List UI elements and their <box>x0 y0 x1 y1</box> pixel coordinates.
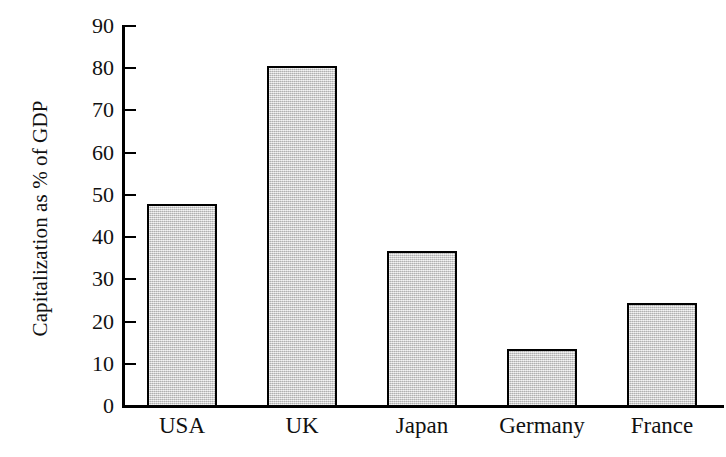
bar-japan <box>387 251 457 407</box>
bars-layer <box>122 26 724 407</box>
y-tick-label: 30 <box>74 268 114 290</box>
y-tick-label: 90 <box>74 15 114 37</box>
y-tick-label: 60 <box>74 142 114 164</box>
y-axis-title: Capitalization as % of GDP <box>28 19 53 419</box>
bar-france <box>627 303 697 407</box>
bar-germany <box>507 349 577 407</box>
x-tick-label-uk: UK <box>242 412 362 440</box>
bar-uk <box>267 66 337 407</box>
x-tick-label-germany: Germany <box>482 412 602 440</box>
y-tick-label: 70 <box>74 99 114 121</box>
y-tick-label: 50 <box>74 184 114 206</box>
bar-usa <box>147 204 217 408</box>
x-axis-category-labels: USAUKJapanGermanyFrance <box>122 412 724 452</box>
x-tick-label-japan: Japan <box>362 412 482 440</box>
y-tick-label: 20 <box>74 311 114 333</box>
y-tick-label: 0 <box>74 395 114 417</box>
y-tick-label: 80 <box>74 57 114 79</box>
bar-chart: Capitalization as % of GDP 0102030405060… <box>0 0 726 457</box>
x-tick-label-usa: USA <box>122 412 242 440</box>
y-tick-label: 10 <box>74 353 114 375</box>
y-tick-label: 40 <box>74 226 114 248</box>
x-tick-label-france: France <box>602 412 722 440</box>
